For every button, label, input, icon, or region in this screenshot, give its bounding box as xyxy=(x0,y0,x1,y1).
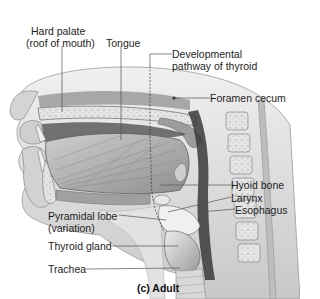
label-trachea: Trachea xyxy=(48,263,86,275)
label-thyroid-gland: Thyroid gland xyxy=(48,240,112,252)
label-larynx: Larynx xyxy=(231,192,263,204)
label-hyoid-bone: Hyoid bone xyxy=(231,179,284,191)
label-pyramidal-lobe-line2: (variation) xyxy=(48,222,95,234)
label-hard-palate-line2: (roof of mouth) xyxy=(26,37,95,49)
label-developmental-line1: Developmental xyxy=(172,48,242,60)
label-tongue: Tongue xyxy=(106,37,140,49)
label-hard-palate-line1: Hard palate xyxy=(31,25,85,37)
label-esophagus: Esophagus xyxy=(235,204,288,216)
hyoid-bone-shape xyxy=(154,195,170,205)
tongue-shape xyxy=(46,133,189,193)
trachea-shape xyxy=(176,268,206,299)
label-developmental-line2: pathway of thyroid xyxy=(172,60,257,72)
label-foramen-cecum: Foramen cecum xyxy=(210,92,286,104)
label-pyramidal-lobe-line1: Pyramidal lobe xyxy=(48,210,117,222)
figure-caption: (c) Adult xyxy=(137,282,179,294)
